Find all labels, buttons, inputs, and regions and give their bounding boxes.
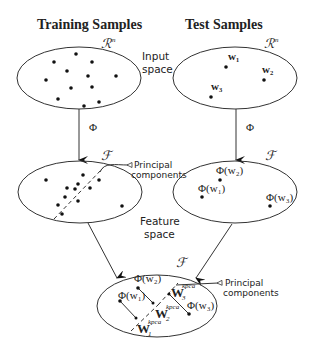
svg-text:w₃: w₃ (211, 80, 223, 92)
svg-text:Φ(w₂): Φ(w₂) (216, 164, 243, 177)
principal-components-label-bottom-line2: components (223, 288, 279, 298)
mapped-training-points (44, 173, 124, 216)
f-right-label: ℱ (265, 148, 278, 163)
mapped-test-point-w1: Φ(w₁) (198, 182, 225, 199)
projection-point-1 (135, 317, 138, 320)
f-left-label: ℱ (101, 148, 114, 163)
kpca-diagram: Training Samples Test Samples ℛ n ℛ n In… (0, 0, 313, 356)
test-point-w3: w₃ (209, 80, 223, 99)
projection-point-2 (152, 302, 155, 305)
mapped-test-point-w3: Φ(w₃) (266, 191, 293, 208)
principal-components-label-bottom-line1: Principal (225, 278, 263, 288)
projection-line-w1 (120, 301, 136, 318)
principal-components-label-mid-line1: Principal (134, 160, 172, 170)
svg-text:3: 3 (181, 294, 186, 302)
combined-point-phi-w3: Φ(w₃) (187, 299, 214, 316)
training-sample-points (44, 52, 118, 108)
test-point-w1: w₁ (224, 50, 239, 69)
svg-text:kpca: kpca (166, 303, 180, 311)
svg-text:Φ(w₁): Φ(w₁) (118, 289, 145, 302)
rn-left-label: ℛ n (101, 36, 116, 51)
w1-kpca-label: W kpca 1 (137, 318, 162, 338)
svg-text:kpca: kpca (182, 282, 196, 290)
svg-text:n: n (112, 36, 116, 44)
rn-right-label: ℛ n (264, 36, 279, 51)
svg-text:2: 2 (166, 315, 170, 323)
title-test-samples: Test Samples (185, 17, 263, 32)
arrow-training-to-combined (88, 223, 117, 278)
principal-component-axis-mid (54, 168, 103, 219)
feature-space-label-line2: space (144, 228, 175, 240)
phi-label-left: Φ (89, 121, 97, 133)
arrow-test-to-combined (196, 224, 232, 278)
combined-point-phi-w2: Φ(w₂) (134, 272, 161, 290)
svg-text:w₂: w₂ (262, 63, 274, 75)
mapped-test-point-w2: Φ(w₂) (216, 164, 243, 182)
input-space-label-line2: space (142, 63, 173, 75)
phi-label-right: Φ (246, 121, 254, 133)
feature-space-label-line1: Feature (140, 215, 180, 227)
w2-kpca-label: W kpca 2 (155, 303, 180, 323)
combined-point-phi-w1: Φ(w₁) (118, 289, 145, 303)
f-bottom-label: ℱ (176, 255, 189, 270)
test-point-w2: w₂ (262, 63, 274, 82)
title-training-samples: Training Samples (37, 17, 143, 32)
svg-text:Φ(w₃): Φ(w₃) (187, 299, 214, 312)
svg-text:1: 1 (148, 330, 152, 338)
training-input-space-ellipse (17, 47, 141, 109)
svg-text:n: n (275, 36, 279, 44)
svg-text:Φ(w₂): Φ(w₂) (134, 272, 161, 285)
svg-text:Φ(w₃): Φ(w₃) (266, 191, 293, 204)
input-space-label-line1: Input (142, 50, 169, 62)
svg-text:w₁: w₁ (228, 50, 239, 62)
svg-text:Φ(w₁): Φ(w₁) (198, 182, 225, 195)
